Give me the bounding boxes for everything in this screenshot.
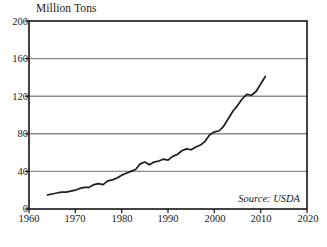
chart-container: Million Tons 200 160 120 80 40 0 1960 19… [0, 0, 327, 247]
source-annotation: Source: USDA [238, 193, 300, 205]
gridlines [29, 59, 307, 172]
chart-plot-svg [0, 0, 327, 247]
plot-frame [29, 21, 307, 209]
axis-tick-marks [25, 21, 307, 213]
data-series-line [48, 76, 266, 194]
